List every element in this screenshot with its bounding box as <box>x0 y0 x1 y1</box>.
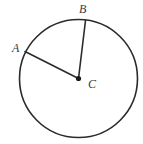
label-c: C <box>88 78 96 90</box>
radius-line-ca <box>25 52 79 79</box>
center-point-dot <box>76 76 81 81</box>
geometry-canvas <box>0 0 143 144</box>
label-a: A <box>12 42 19 54</box>
radius-line-cb <box>79 21 86 79</box>
circle-diagram: A B C <box>0 0 143 144</box>
label-b: B <box>79 3 86 15</box>
